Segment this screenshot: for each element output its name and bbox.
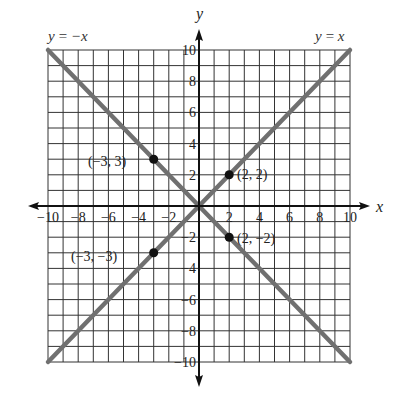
point-label-neg3-neg3: (−3, −3)	[71, 249, 117, 265]
y-tick-label: −6	[181, 293, 196, 308]
x-tick-label: 6	[286, 210, 293, 225]
data-point	[149, 248, 158, 257]
y-tick-label: 10	[182, 43, 196, 58]
data-point	[149, 155, 158, 164]
x-tick-label: 10	[343, 210, 357, 225]
x-tick-label: −10	[37, 210, 59, 225]
y-tick-label: −8	[181, 324, 196, 339]
x-tick-label: −4	[131, 210, 146, 225]
coordinate-plane: −10−8−6−4−2246810108642−2−4−6−8−10 x y y…	[0, 0, 405, 394]
y-tick-label: 6	[189, 105, 196, 120]
point-label-2-neg2: (2, −2)	[237, 231, 276, 247]
y-tick-label: 8	[189, 74, 196, 89]
x-tick-label: 8	[316, 210, 323, 225]
point-label-neg3-3: (−3, 3)	[88, 154, 127, 170]
y-tick-label: 4	[189, 137, 196, 152]
x-tick-label: 4	[256, 210, 263, 225]
y-tick-label: −4	[181, 261, 196, 276]
data-point	[225, 233, 234, 242]
y-axis-label: y	[194, 5, 204, 23]
y-tick-label: −2	[181, 230, 196, 245]
x-tick-label: −8	[71, 210, 86, 225]
line-label-y-x: y = x	[313, 28, 345, 44]
x-tick-label: −6	[101, 210, 116, 225]
x-tick-label: −2	[161, 210, 176, 225]
point-label-2-2: (2, 2)	[237, 167, 268, 183]
x-tick-label: 2	[226, 210, 233, 225]
line-label-y-neg-x: y = −x	[46, 28, 88, 44]
data-point	[225, 170, 234, 179]
x-axis-label: x	[375, 198, 383, 215]
y-tick-label: 2	[189, 168, 196, 183]
y-tick-label: −10	[174, 355, 196, 370]
